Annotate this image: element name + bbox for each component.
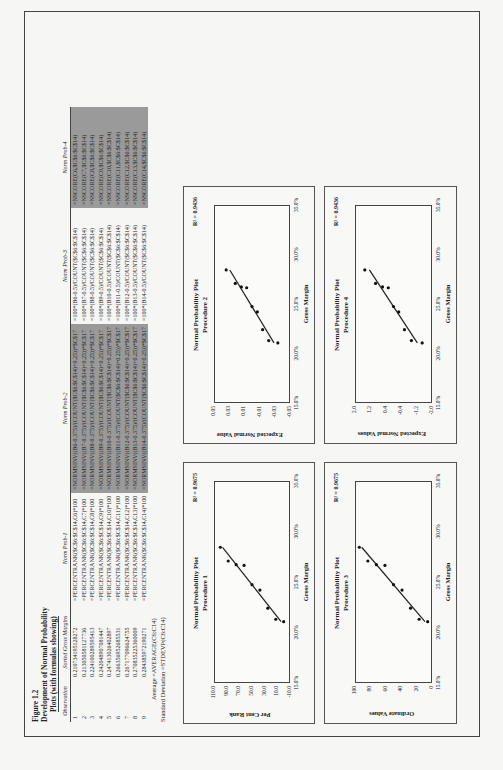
x-tick-label: 20.0% xyxy=(435,341,441,367)
data-point xyxy=(403,328,406,331)
table-cell: =PERCENTRANK($C$6:$C$14,C8)*100 xyxy=(88,493,97,604)
table-cell: =PERCENTRANK($C$6:$C$14,C7)*100 xyxy=(80,493,89,604)
y-axis-label: Expected Normal Value xyxy=(212,431,288,439)
data-point xyxy=(219,546,222,549)
data-point xyxy=(374,282,377,285)
table-cell: =100*(B12-0.5)/COUNT($C$6:$C$14) xyxy=(123,208,132,324)
chart-procedure-4: Normal Probability PlotProcedure 4R² = 0… xyxy=(324,186,457,444)
data-point xyxy=(410,339,413,342)
column-header: Sorted Gross Margins xyxy=(61,604,71,680)
x-tick-label: 30.0% xyxy=(435,242,441,268)
table-row: 60.266356952685531=PERCENTRANK($C$6:$C$1… xyxy=(114,107,123,722)
x-tick-label: 25.0% xyxy=(293,569,299,595)
data-point xyxy=(256,310,259,313)
x-tick-label: 20.0% xyxy=(293,620,299,646)
figure-frame: Figure 1.2 Development of Normal Probabi… xyxy=(24,11,480,737)
data-point xyxy=(426,620,429,623)
table-cell: =NORMSINV((B11-0.375)/(COUNT($C$6:$C$14)… xyxy=(114,324,123,493)
table-row: 20.213050581127736=PERCENTRANK($C$6:$C$1… xyxy=(80,107,89,722)
data-point xyxy=(261,328,264,331)
data-point xyxy=(250,305,253,308)
table-cell: =PERCENTRANK($C$6:$C$14,C9)*100 xyxy=(97,493,106,604)
x-axis-label: Gross Margin xyxy=(444,481,451,683)
y-axis-label: Expected Normal Values xyxy=(353,431,430,439)
x-tick-label: 15.0% xyxy=(293,390,299,416)
y-tick-label: -0.03 xyxy=(271,406,277,428)
y-tick-label: 1.2 xyxy=(366,406,372,428)
x-axis-label: Gross Margin xyxy=(302,481,309,683)
y-tick-label: 70.0 xyxy=(235,686,241,708)
table-cell: 8 xyxy=(131,680,140,722)
chart-subtitle: Procedure 3 xyxy=(342,463,351,723)
scatter-points xyxy=(355,205,432,403)
y-tick-label: 10.0 xyxy=(273,686,279,708)
r-squared-label: R² = 0.9436 xyxy=(333,197,339,226)
data-point xyxy=(418,618,421,621)
table-cell: =PERCENTRANK($C$6:$C$14,C12)*100 xyxy=(123,493,132,604)
y-tick-label: -0.05 xyxy=(286,406,292,428)
x-axis-label: Gross Margin xyxy=(302,205,309,403)
table-cell: 7 xyxy=(123,680,132,722)
table-row: 30.224100289595413=PERCENTRANK($C$6:$C$1… xyxy=(88,107,97,722)
data-point xyxy=(375,563,378,566)
table-cell: =100*(B10-0.5)/COUNT($C$6:$C$14) xyxy=(105,208,114,324)
table-cell: =NORMSINV((B14-0.375)/(COUNT($C$6:$C$14)… xyxy=(140,324,149,493)
table-cell: 5 xyxy=(105,680,114,722)
figure-title: Development of Normal Probability Plots … xyxy=(40,607,59,722)
y-tick-label: 0.4 xyxy=(382,406,388,428)
table-row: 50.247413026402897=PERCENTRANK($C$6:$C$1… xyxy=(105,107,114,722)
x-tick-label: 30.0% xyxy=(293,242,299,268)
y-tick-label: 30.0 xyxy=(261,686,267,708)
table-cell: 1 xyxy=(71,680,80,722)
column-header: Norm Prob-1 xyxy=(61,493,71,604)
table-cell: =PERCENTRANK($C$6:$C$14,C10)*100 xyxy=(105,493,114,604)
table-cell: 0.213050581127736 xyxy=(80,604,89,680)
table-cell: =NSCORE(C12,$C$6:$C$14) xyxy=(123,107,132,208)
table-cell: 0.284385972190271 xyxy=(140,604,149,680)
x-tick-label: 25.0% xyxy=(435,569,441,595)
table-cell: =PERCENTRANK($C$6:$C$14,C6)*100 xyxy=(71,493,80,604)
table-cell: =100*(B7-0.5)/COUNT($C$6:$C$14) xyxy=(80,208,89,324)
table-row: 70.267177096624755=PERCENTRANK($C$6:$C$1… xyxy=(123,107,132,722)
scatter-points xyxy=(214,205,290,403)
table-cell: 0.242048907081447 xyxy=(97,604,106,680)
table-cell: =NSCORE(C14,$C$6:$C$14) xyxy=(140,107,149,208)
table-cell: =100*(B9-0.5)/COUNT($C$6:$C$14) xyxy=(97,208,106,324)
y-tick-label: 50.0 xyxy=(248,686,254,708)
table-cell: 3 xyxy=(88,680,97,722)
y-tick-label: -0.01 xyxy=(256,406,262,428)
data-point xyxy=(366,559,369,562)
data-point xyxy=(392,305,395,308)
r-squared-label: R² = 0.9675 xyxy=(333,473,339,502)
table-cell: =100*(B14-0.5)/COUNT($C$6:$C$14) xyxy=(140,208,149,324)
y-tick-label: -10.0 xyxy=(286,686,292,708)
y-tick-label: 0.01 xyxy=(240,406,246,428)
x-tick-label: 15.0% xyxy=(435,390,441,416)
scatter-points xyxy=(355,481,432,683)
y-tick-label: 0 xyxy=(428,686,434,708)
table-cell: 0.224100289595413 xyxy=(88,604,97,680)
r-squared-label: R² = 0.9436 xyxy=(192,197,198,226)
x-tick-label: 15.0% xyxy=(435,670,441,696)
data-point xyxy=(282,620,285,623)
y-tick-label: 2.0 xyxy=(351,406,357,428)
data-point xyxy=(240,285,243,288)
table-cell: 0.266356952685531 xyxy=(114,604,123,680)
x-tick-label: 35.0% xyxy=(293,192,299,218)
data-point xyxy=(245,286,248,289)
table-cell: =PERCENTRANK($C$6:$C$14,C13)*100 xyxy=(131,493,140,604)
y-tick-label: 40 xyxy=(397,686,403,708)
table-cell: =NSCORE(C13,$C$6:$C$14) xyxy=(131,107,140,208)
table-cell: =NSCORE(C11,$C$6:$C$14) xyxy=(114,107,123,208)
y-tick-label: 0.03 xyxy=(225,406,231,428)
data-point xyxy=(225,268,228,271)
table-cell: =NSCORE(C10,$C$6:$C$14) xyxy=(105,107,114,208)
y-axis-label: Per Cent Rank xyxy=(212,711,288,719)
table-cell: 0.270835225360009 xyxy=(131,604,140,680)
data-point xyxy=(363,268,366,271)
table-cell: =PERCENTRANK($C$6:$C$14,C14)*100 xyxy=(140,493,149,604)
table-cell: =NORMSINV((B10-0.375)/(COUNT($C$6:$C$14)… xyxy=(105,324,114,493)
data-point xyxy=(234,282,237,285)
y-tick-label: 0.05 xyxy=(210,406,216,428)
column-header: Norm Prob-2 xyxy=(61,324,71,493)
